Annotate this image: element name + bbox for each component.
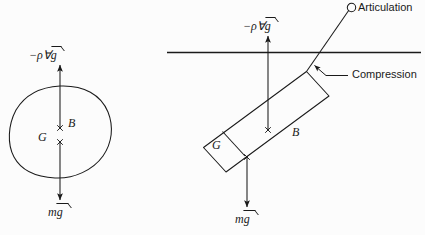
- right-weight-force-vector-g: g: [244, 213, 251, 225]
- left-weight-force-prefix: m: [48, 205, 57, 219]
- right-buoyancy-force-prefix: −ρ∀: [243, 19, 265, 33]
- articulation-label: Articulation: [358, 2, 412, 13]
- right-weight-force-label: mg: [235, 213, 251, 225]
- right-buoyancy-force-vector-g: g: [265, 20, 272, 32]
- left-center-of-gravity-label: G: [38, 131, 47, 143]
- articulation-pivot-icon: [347, 3, 355, 11]
- left-weight-force-vector-g: g: [57, 206, 64, 218]
- right-buoyancy-force-label: −ρ∀g: [243, 20, 272, 32]
- left-buoyancy-force-label: −ρ∀g: [29, 49, 58, 61]
- diagram-canvas: [0, 0, 425, 235]
- rod-ballast-divider-line: [223, 132, 246, 157]
- compression-callout-leader: [315, 66, 349, 76]
- left-panel-group: [9, 65, 111, 200]
- figure-root: −ρ∀g B G mg −ρ∀g Articulation Compressio…: [0, 0, 425, 235]
- left-buoyancy-force-prefix: −ρ∀: [29, 48, 51, 62]
- right-panel-group: [167, 3, 421, 207]
- right-center-of-gravity-label: G: [212, 139, 221, 151]
- articulation-link-line: [307, 10, 350, 72]
- right-center-of-buoyancy-label: B: [292, 126, 299, 138]
- rod-body-outline: [204, 72, 330, 173]
- left-center-of-buoyancy-label: B: [68, 117, 75, 129]
- right-weight-force-prefix: m: [235, 212, 244, 226]
- left-buoyancy-force-vector-g: g: [51, 49, 58, 61]
- compression-label: Compression: [352, 69, 417, 80]
- left-weight-force-label: mg: [48, 206, 64, 218]
